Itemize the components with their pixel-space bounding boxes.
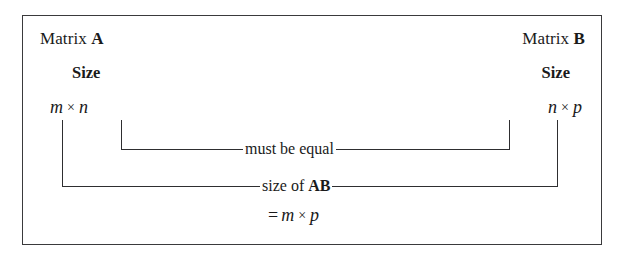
inner-bracket-left-stem bbox=[121, 120, 122, 149]
right-dim-cols: p bbox=[573, 97, 582, 117]
result-dimensions: =m×p bbox=[268, 206, 319, 224]
outer-bracket-label-prefix: size of bbox=[262, 177, 304, 194]
left-dim-rows: m bbox=[50, 97, 63, 117]
result-equals-sign: = bbox=[268, 205, 281, 225]
matrix-multiplication-size-diagram: Matrix A Size m×n Matrix B Size n×p must… bbox=[0, 0, 630, 260]
outer-bracket-label-name: AB bbox=[308, 177, 330, 194]
inner-bracket-right-stem bbox=[509, 120, 510, 149]
right-matrix-header-prefix: Matrix bbox=[522, 29, 569, 48]
right-dim-rows: n bbox=[548, 97, 557, 117]
left-size-label: Size bbox=[72, 65, 100, 82]
left-dim-times-icon: × bbox=[63, 100, 79, 115]
result-cols: p bbox=[310, 205, 319, 225]
right-matrix-header: Matrix B bbox=[522, 30, 585, 47]
right-matrix-header-name: B bbox=[574, 29, 585, 48]
outer-bracket-right-stem bbox=[557, 120, 558, 186]
left-matrix-header-name: A bbox=[91, 29, 103, 48]
right-matrix-dimensions: n×p bbox=[548, 98, 582, 116]
outer-bracket-label: size of AB bbox=[260, 178, 332, 194]
right-dim-times-icon: × bbox=[557, 100, 573, 115]
inner-bracket-label: must be equal bbox=[243, 141, 336, 157]
result-times-icon: × bbox=[294, 208, 310, 223]
right-size-label: Size bbox=[542, 65, 570, 82]
left-matrix-header: Matrix A bbox=[40, 30, 104, 47]
left-dim-cols: n bbox=[79, 97, 88, 117]
left-matrix-header-prefix: Matrix bbox=[40, 29, 87, 48]
result-rows: m bbox=[281, 205, 294, 225]
outer-bracket-left-stem bbox=[62, 120, 63, 186]
left-matrix-dimensions: m×n bbox=[50, 98, 88, 116]
